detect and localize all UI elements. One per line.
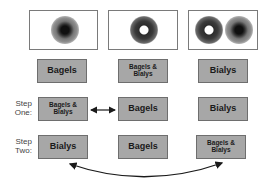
curved-double-arrow-icon xyxy=(70,163,222,177)
swap-arrows xyxy=(0,0,271,185)
